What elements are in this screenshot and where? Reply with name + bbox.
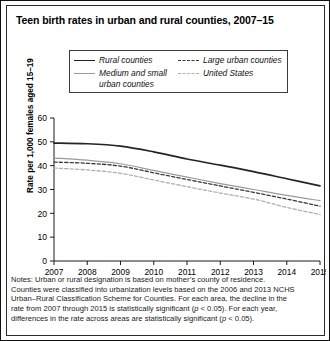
y-axis-tick-label: 0	[42, 256, 47, 266]
chart-notes: Notes: Urban or rural designation is bas…	[11, 275, 321, 324]
y-axis-tick-label: 10	[37, 232, 47, 242]
notes-line-1: Notes: Urban or rural designation is bas…	[11, 275, 321, 285]
notes-line-4-a: rate from 2007 through 2015 is statistic…	[11, 304, 194, 313]
notes-line-4: rate from 2007 through 2015 is statistic…	[11, 304, 321, 314]
y-axis-tick-label: 50	[37, 137, 47, 147]
notes-line-4-b: < 0.05). For each year,	[198, 304, 277, 313]
notes-line-5: differences in the rate across areas are…	[11, 314, 321, 324]
y-axis-tick-label: 20	[37, 209, 47, 219]
y-axis-tick-label: 30	[37, 185, 47, 195]
y-axis-tick-label: 40	[37, 161, 47, 171]
notes-line-2: Counties were classified into urbanizati…	[11, 285, 321, 295]
figure-panel: Teen birth rates in urban and rural coun…	[0, 0, 330, 341]
series-line-united-states	[54, 168, 320, 214]
line-chart-svg: 0102030405060200720082009201020112012201…	[7, 6, 326, 276]
series-line-large-urban-counties	[54, 162, 320, 206]
notes-line-5-a: differences in the rate across areas are…	[11, 314, 222, 323]
y-axis-tick-label: 60	[37, 113, 47, 123]
figure-inner-border: Teen birth rates in urban and rural coun…	[6, 5, 325, 336]
notes-line-5-b: < 0.05).	[226, 314, 254, 323]
notes-line-3: Urban–Rural Classification Scheme for Co…	[11, 294, 321, 304]
